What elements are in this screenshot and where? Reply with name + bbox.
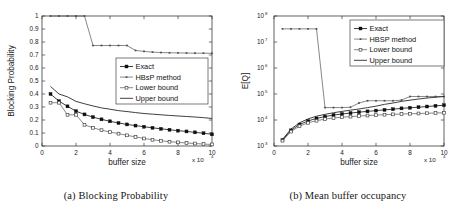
data-point <box>126 76 128 78</box>
data-point <box>117 132 120 135</box>
data-point <box>383 108 386 111</box>
data-point <box>118 45 120 47</box>
legend-label: Upper bound <box>370 56 413 65</box>
data-point <box>281 139 284 142</box>
data-point <box>126 45 128 47</box>
y-tick-label: 0.6 <box>30 64 39 71</box>
x-tick-label: 6 <box>374 149 378 156</box>
legend-label: Lower bound <box>136 83 179 92</box>
data-point <box>211 133 214 136</box>
data-point <box>109 120 112 123</box>
chart-b-svg: 0246810 103104105106107108 buffer size E… <box>232 2 464 188</box>
data-point <box>341 107 343 109</box>
panel-b-caption: (b) Mean buffer occupancy <box>232 190 464 201</box>
data-point <box>109 45 111 47</box>
data-point <box>160 127 163 130</box>
y-tick-label-exponent: 6 <box>265 63 268 68</box>
data-point <box>359 48 362 51</box>
data-point <box>143 137 146 140</box>
legend-label: Exact <box>370 24 388 33</box>
data-point <box>109 131 112 134</box>
data-point <box>117 121 120 124</box>
data-point <box>367 100 369 102</box>
data-point <box>375 100 377 102</box>
data-point <box>443 111 446 114</box>
data-point <box>202 132 205 135</box>
data-point <box>332 117 335 120</box>
legend-label: Upper bound <box>136 94 179 103</box>
data-point <box>169 52 171 54</box>
x-tick-label: 6 <box>142 149 146 156</box>
x-axis-multiplier: x 10 <box>192 156 204 163</box>
x-axis-label: buffer size <box>340 158 378 167</box>
data-point <box>143 51 145 53</box>
data-point <box>358 111 361 114</box>
data-point <box>307 121 310 124</box>
data-point <box>177 141 180 144</box>
y-tick-label-exponent: 5 <box>265 89 268 94</box>
data-point <box>92 126 95 129</box>
data-point <box>50 15 52 17</box>
data-point <box>100 129 103 132</box>
data-point <box>324 107 326 109</box>
data-point <box>401 99 403 101</box>
data-point <box>366 110 369 113</box>
legend-label: Lower bound <box>370 45 413 54</box>
chart-legend: ExactHBSP methodLower boundUpper bound <box>350 20 444 66</box>
x-tick-label: 4 <box>340 149 344 156</box>
data-point <box>375 114 378 117</box>
data-point <box>135 50 137 52</box>
x-tick-label: 0 <box>40 149 44 156</box>
x-tick-label: 2 <box>306 149 310 156</box>
data-point <box>58 101 61 104</box>
data-point <box>315 119 318 122</box>
data-point <box>66 105 69 108</box>
data-point <box>409 106 412 109</box>
data-point <box>426 96 428 98</box>
data-point <box>83 113 86 116</box>
y-tick-label: 10 <box>257 90 265 97</box>
data-point <box>160 52 162 54</box>
data-point <box>349 115 352 118</box>
y-tick-label: 0.9 <box>30 25 39 32</box>
data-point <box>185 142 188 145</box>
data-point <box>92 116 95 119</box>
x-tick-label: 8 <box>176 149 180 156</box>
data-point <box>125 65 128 68</box>
panel-a-caption: (a) Blocking Probability <box>0 190 232 201</box>
figure-panel-a: 0246810 00.10.20.30.40.50.60.70.80.91 bu… <box>0 0 232 222</box>
y-tick-label: 0 <box>35 142 39 149</box>
y-tick-label: 0.5 <box>30 77 39 84</box>
data-point <box>392 113 395 116</box>
data-point <box>299 28 301 30</box>
y-tick-label: 0.7 <box>30 51 39 58</box>
x-tick-labels: 0246810 <box>272 149 448 156</box>
data-point <box>358 115 361 118</box>
data-point <box>298 125 301 128</box>
y-tick-label-exponent: 7 <box>265 37 268 42</box>
y-tick-label: 1 <box>35 12 39 19</box>
data-point <box>383 113 386 116</box>
data-point <box>177 129 180 132</box>
data-point <box>203 52 205 54</box>
x-tick-label: 8 <box>408 149 412 156</box>
y-tick-label: 10 <box>257 12 265 19</box>
data-point <box>359 27 362 30</box>
x-tick-label: 4 <box>108 149 112 156</box>
y-tick-label: 0.3 <box>30 103 39 110</box>
y-tick-label: 0.8 <box>30 38 39 45</box>
y-tick-label-exponent: 3 <box>265 141 268 146</box>
data-point <box>350 106 352 108</box>
data-point <box>384 100 386 102</box>
data-point <box>358 102 360 104</box>
data-point <box>333 107 335 109</box>
chart-legend: ExactHBsP methodLower boundUpper bound <box>116 58 208 104</box>
data-point <box>168 128 171 131</box>
data-point <box>100 118 103 121</box>
data-point <box>143 125 146 128</box>
data-point <box>126 134 129 137</box>
data-point <box>307 28 309 30</box>
figure-panel-b: 0246810 103104105106107108 buffer size E… <box>232 0 464 222</box>
chart-a-svg: 0246810 00.10.20.30.40.50.60.70.80.91 bu… <box>0 2 232 188</box>
data-point <box>67 15 69 17</box>
